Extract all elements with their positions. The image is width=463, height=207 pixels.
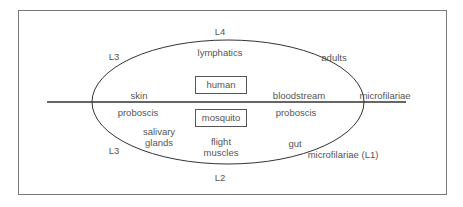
lymphatics-label: lymphatics [190, 47, 250, 58]
salivary-glands-line2: glands [134, 137, 184, 148]
stage-l3-top-label: L3 [104, 51, 124, 62]
stage-l2-label: L2 [210, 172, 230, 183]
microfilariae-label: microfilariae [350, 90, 420, 101]
bloodstream-label: bloodstream [264, 90, 334, 101]
flight-muscles-line2: muscles [196, 147, 246, 158]
adults-label: adults [314, 52, 354, 63]
proboscis-left-label: proboscis [110, 107, 166, 118]
life-cycle-shapes [0, 0, 463, 207]
microfilariae-l1-label: microfilariae (L1) [298, 149, 388, 160]
mosquito-box: mosquito [195, 109, 247, 127]
proboscis-right-label: proboscis [268, 107, 324, 118]
gut-label: gut [285, 138, 305, 149]
stage-l4-label: L4 [210, 26, 230, 37]
flight-muscles-label: flight muscles [196, 136, 246, 158]
skin-label: skin [124, 90, 154, 101]
salivary-glands-line1: salivary [134, 126, 184, 137]
stage-l3-bottom-label: L3 [104, 145, 124, 156]
salivary-glands-label: salivary glands [134, 126, 184, 148]
human-box: human [195, 76, 247, 94]
flight-muscles-line1: flight [196, 136, 246, 147]
